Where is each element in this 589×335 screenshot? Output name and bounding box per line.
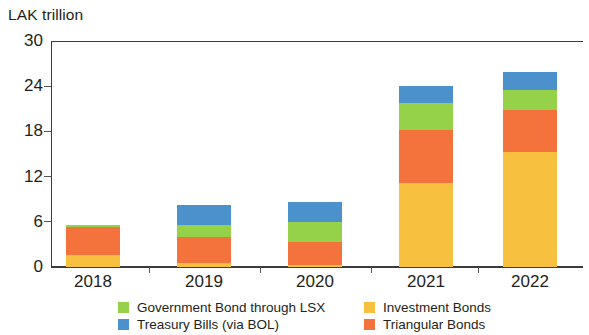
bar-2021 — [399, 86, 453, 267]
bar-segment — [399, 103, 453, 130]
legend-item[interactable]: Triangular Bonds — [364, 316, 485, 333]
legend-swatch-icon — [118, 319, 129, 330]
bar-segment — [503, 72, 557, 90]
legend-label: Triangular Bonds — [383, 316, 485, 333]
bar-segment — [399, 183, 453, 267]
bar-segment — [177, 205, 231, 225]
legend-item[interactable]: Treasury Bills (via BOL) — [118, 316, 364, 333]
bar-2019 — [177, 205, 231, 268]
bar-segment — [503, 152, 557, 267]
x-axis-label-2018: 2018 — [48, 272, 138, 292]
legend-swatch-icon — [118, 302, 129, 313]
bar-segment — [399, 86, 453, 103]
y-axis-title: LAK trillion — [8, 6, 83, 24]
bar-2018 — [66, 225, 120, 267]
chart-container: LAK trillion 0612182430 2018201920202021… — [0, 0, 589, 335]
bar-segment — [177, 263, 231, 267]
y-axis-tick — [44, 86, 51, 87]
bar-2022 — [503, 72, 557, 267]
bar-segment — [399, 130, 453, 183]
legend-item[interactable]: Investment Bonds — [364, 299, 491, 316]
x-axis-label-2020: 2020 — [270, 272, 360, 292]
legend-row: Government Bond through LSXInvestment Bo… — [118, 299, 588, 316]
legend-label: Investment Bonds — [383, 299, 491, 316]
bar-segment — [288, 242, 342, 265]
bar-segment — [177, 237, 231, 263]
y-axis-tick — [44, 131, 51, 132]
legend-swatch-icon — [364, 302, 375, 313]
y-axis-tick — [44, 176, 51, 177]
bar-segment — [177, 225, 231, 237]
bar-segment — [503, 90, 557, 110]
bar-segment — [288, 265, 342, 267]
bar-segment — [66, 227, 120, 255]
y-axis-label: 30 — [3, 32, 43, 49]
legend: Government Bond through LSXInvestment Bo… — [118, 299, 588, 333]
legend-row: Treasury Bills (via BOL)Triangular Bonds — [118, 316, 588, 333]
bar-segment — [503, 110, 557, 152]
legend-swatch-icon — [364, 319, 375, 330]
legend-label: Treasury Bills (via BOL) — [137, 316, 279, 333]
x-axis-tick — [371, 267, 372, 273]
y-axis-label: 12 — [3, 168, 43, 185]
bar-segment — [288, 222, 342, 242]
bar-segment — [288, 202, 342, 222]
legend-label: Government Bond through LSX — [137, 299, 325, 316]
x-axis-label-2021: 2021 — [381, 272, 471, 292]
x-axis-label-2019: 2019 — [159, 272, 249, 292]
y-axis-label: 24 — [3, 77, 43, 94]
bar-2020 — [288, 202, 342, 267]
y-axis-label: 18 — [3, 122, 43, 139]
x-axis-tick — [478, 267, 479, 273]
y-axis-tick — [44, 221, 51, 222]
legend-item[interactable]: Government Bond through LSX — [118, 299, 364, 316]
y-axis-label: 6 — [3, 213, 43, 230]
x-axis-tick — [149, 267, 150, 273]
x-axis-tick — [260, 267, 261, 273]
y-axis-label: 0 — [3, 258, 43, 275]
x-axis-label-2022: 2022 — [485, 272, 575, 292]
bar-segment — [66, 255, 120, 267]
